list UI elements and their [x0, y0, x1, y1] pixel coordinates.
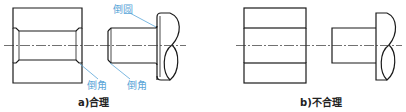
chamfer-shaft-leader [110, 63, 130, 79]
caption-a: a)合理 [78, 96, 109, 108]
chamfer-hole-leader [80, 64, 98, 79]
label-chamfer-hole: 倒角 [87, 80, 107, 91]
label-chamfer-shaft: 倒角 [127, 80, 147, 91]
diagram-canvas: 倒圆 倒角 倒角 a)合理 b)不合理 [0, 0, 406, 112]
panel-b: b)不合理 [236, 8, 402, 108]
label-fillet: 倒圆 [113, 4, 133, 15]
caption-b: b)不合理 [300, 96, 342, 108]
panel-a: 倒圆 倒角 倒角 a)合理 [4, 4, 186, 108]
shaft-b [332, 13, 396, 80]
